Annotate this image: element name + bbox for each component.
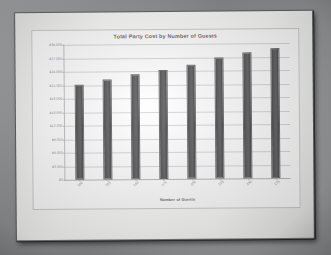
paper-bottom-edge-shadow (17, 238, 315, 242)
x-axis-tick-label: 100 (77, 181, 84, 188)
y-axis-tick-label: $6,000 (52, 151, 63, 155)
chart-title: Total Party Cost by Number of Guests (32, 32, 298, 40)
bar-cell: 150 (121, 44, 150, 179)
paper-sheet: Total Party Cost by Number of Guests $30… (15, 11, 315, 241)
bar (271, 48, 281, 179)
x-axis-tick-label: 150 (133, 180, 140, 187)
y-axis-tick-label: $27,000 (49, 56, 62, 60)
bar (130, 74, 140, 179)
chart-container: Total Party Cost by Number of Guests $30… (31, 28, 300, 210)
bar (243, 52, 253, 178)
y-axis-tick-label: $12,000 (50, 124, 63, 128)
bar-cell: 275 (261, 43, 290, 178)
x-axis-tick-label: 250 (245, 180, 252, 187)
y-axis-tick-label: $18,000 (50, 97, 63, 101)
x-axis-tick-label: 275 (274, 179, 281, 186)
y-axis-tick-label: $21,000 (50, 83, 63, 87)
bar (158, 70, 168, 179)
y-axis-tick-mark (64, 180, 66, 181)
bar-series: 100125150175200225250275 (64, 43, 290, 180)
bar-cell: 225 (205, 43, 234, 178)
y-axis-tick-label: $15,000 (50, 110, 63, 114)
bar-cell: 200 (177, 44, 206, 179)
y-axis-tick-label: $0 (59, 178, 63, 182)
bar-cell: 175 (149, 44, 178, 179)
bar (187, 64, 197, 178)
x-axis-tick-label: 225 (217, 180, 224, 187)
bar (215, 58, 225, 179)
plot-area: $30,000$27,000$24,000$21,000$18,000$15,0… (63, 43, 290, 181)
x-axis-tick-label: 175 (161, 180, 168, 187)
bar-cell: 250 (233, 43, 262, 178)
photograph-of-printed-chart: Total Party Cost by Number of Guests $30… (0, 0, 331, 255)
paper-right-edge-shadow (312, 11, 316, 239)
x-axis-title: Number of Guests (65, 196, 291, 203)
y-axis-tick-label: $9,000 (52, 137, 63, 141)
bar (102, 79, 112, 179)
y-axis-tick-label: $3,000 (52, 164, 63, 168)
bar-cell: 125 (92, 44, 121, 179)
bar-cell: 100 (64, 45, 93, 180)
bar (74, 84, 84, 179)
x-axis-tick-label: 125 (105, 181, 112, 188)
y-axis-tick-label: $30,000 (49, 43, 62, 47)
x-axis-tick-label: 200 (189, 180, 196, 187)
y-axis-tick-label: $24,000 (49, 70, 62, 74)
